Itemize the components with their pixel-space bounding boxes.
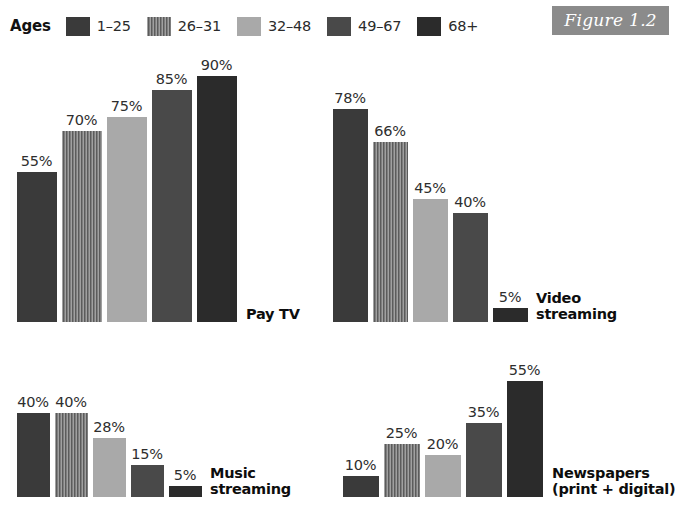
panel-label-line: (print + digital) <box>552 481 675 497</box>
bar-26-31 <box>55 413 88 497</box>
bar-32-48 <box>425 455 461 497</box>
legend-entry-26-31: 26–31 <box>147 17 221 36</box>
bar-value-label: 90% <box>201 58 232 77</box>
chart-panel-newspapers: 10%25%20%35%55% Newspapers(print + digit… <box>340 340 677 497</box>
bar-49-67 <box>152 90 192 322</box>
legend-entry-49-67: 49–67 <box>327 17 401 36</box>
legend-label-68-plus: 68+ <box>448 18 478 34</box>
bar-value-label: 70% <box>66 113 97 132</box>
bar-value-label: 78% <box>334 91 365 110</box>
bar-slot: 55% <box>504 363 545 498</box>
legend-swatch-1-25 <box>66 17 90 36</box>
bar-slot: 40% <box>14 395 52 498</box>
bar-value-label: 85% <box>156 72 187 91</box>
bar-slot: 10% <box>340 458 381 498</box>
bar-1-25 <box>17 172 57 322</box>
bar-slot: 5% <box>166 468 204 498</box>
legend-entry-68-plus: 68+ <box>417 17 478 36</box>
legend-title: Ages <box>10 17 51 35</box>
panel-label-line: streaming <box>210 481 291 497</box>
bar-value-label: 20% <box>427 437 458 456</box>
figure-number-badge: Figure 1.2 <box>552 6 669 35</box>
legend-swatch-32-48 <box>237 17 261 36</box>
bar-value-label: 10% <box>345 458 376 477</box>
legend-label-49-67: 49–67 <box>358 18 401 34</box>
bar-value-label: 40% <box>454 195 485 214</box>
bar-49-67 <box>453 213 488 322</box>
chart-panel-video-streaming: 78%66%45%40%5% Videostreaming <box>330 42 677 322</box>
bar-value-label: 5% <box>499 290 521 309</box>
bar-slot: 35% <box>463 405 504 498</box>
bar-slot: 15% <box>128 447 166 498</box>
panel-label-pay-tv: Pay TV <box>246 306 300 322</box>
bar-slot: 40% <box>450 195 490 323</box>
bar-26-31 <box>373 142 408 322</box>
legend-swatch-26-31 <box>147 17 171 36</box>
bar-value-label: 28% <box>93 420 124 439</box>
bar-slot: 40% <box>52 395 90 498</box>
bar-32-48 <box>107 117 147 322</box>
bar-1-25 <box>333 109 368 322</box>
bar-slot: 28% <box>90 420 128 498</box>
bar-group: 10%25%20%35%55% <box>340 340 545 497</box>
bar-slot: 78% <box>330 91 370 323</box>
bar-value-label: 55% <box>509 363 540 382</box>
bar-68- <box>493 308 528 322</box>
bar-68- <box>197 76 237 322</box>
bar-slot: 66% <box>370 124 410 323</box>
bar-1-25 <box>17 413 50 497</box>
legend-label-26-31: 26–31 <box>178 18 221 34</box>
bar-26-31 <box>62 131 102 322</box>
bar-value-label: 25% <box>386 426 417 445</box>
bar-value-label: 40% <box>17 395 48 414</box>
bar-slot: 45% <box>410 181 450 323</box>
bar-68- <box>507 381 543 497</box>
bar-group: 55%70%75%85%90% <box>14 42 239 322</box>
bar-slot: 20% <box>422 437 463 498</box>
legend-label-32-48: 32–48 <box>268 18 311 34</box>
legend-swatch-49-67 <box>327 17 351 36</box>
bar-group: 40%40%28%15%5% <box>14 357 204 497</box>
panel-label-line: Newspapers <box>552 465 675 481</box>
bar-slot: 90% <box>194 58 239 323</box>
bar-value-label: 40% <box>55 395 86 414</box>
bar-value-label: 35% <box>468 405 499 424</box>
bar-value-label: 55% <box>21 154 52 173</box>
panel-label-line: streaming <box>536 306 617 322</box>
panel-label-music-streaming: Musicstreaming <box>210 465 291 497</box>
bar-value-label: 15% <box>131 447 162 466</box>
legend-entry-1-25: 1–25 <box>66 17 131 36</box>
panel-label-video-streaming: Videostreaming <box>536 290 617 322</box>
bar-32-48 <box>93 438 126 497</box>
panel-label-line: Music <box>210 465 291 481</box>
bar-slot: 85% <box>149 72 194 323</box>
bar-value-label: 75% <box>111 99 142 118</box>
bar-26-31 <box>384 444 420 497</box>
bar-group: 78%66%45%40%5% <box>330 42 530 322</box>
panel-label-line: Pay TV <box>246 306 300 322</box>
legend-entry-32-48: 32–48 <box>237 17 311 36</box>
panel-label-line: Video <box>536 290 617 306</box>
bar-1-25 <box>343 476 379 497</box>
bar-value-label: 45% <box>414 181 445 200</box>
bar-slot: 55% <box>14 154 59 323</box>
bar-49-67 <box>131 465 164 497</box>
bar-32-48 <box>413 199 448 322</box>
bar-slot: 70% <box>59 113 104 323</box>
bar-value-label: 5% <box>174 468 196 487</box>
bar-value-label: 66% <box>374 124 405 143</box>
chart-panel-pay-tv: 55%70%75%85%90% Pay TV <box>14 42 294 322</box>
bar-49-67 <box>466 423 502 497</box>
bar-slot: 75% <box>104 99 149 323</box>
legend-swatch-68-plus <box>417 17 441 36</box>
bar-68- <box>169 486 202 497</box>
panel-label-newspapers: Newspapers(print + digital) <box>552 465 675 497</box>
bar-slot: 5% <box>490 290 530 323</box>
legend-label-1-25: 1–25 <box>97 18 131 34</box>
legend: Ages 1–25 26–31 32–48 49–67 68+ <box>10 14 494 38</box>
chart-panel-music-streaming: 40%40%28%15%5% Musicstreaming <box>14 357 304 497</box>
bar-slot: 25% <box>381 426 422 498</box>
